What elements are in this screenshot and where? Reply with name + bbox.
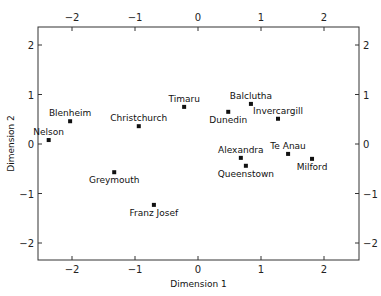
x-axis-title: Dimension 1 <box>170 279 226 289</box>
point-label: Timaru <box>167 94 199 104</box>
square-marker-icon <box>47 138 51 142</box>
y-tick-label-right: 0 <box>363 139 369 150</box>
y-tick-label-right: −1 <box>363 189 378 200</box>
square-marker-icon <box>112 170 116 174</box>
point-label: Alexandra <box>218 145 264 155</box>
data-point: Franz Josef <box>130 203 179 218</box>
x-tick-label-top: −1 <box>128 12 143 23</box>
x-tick-label-bottom: 0 <box>195 264 201 275</box>
x-tick-label-top: −2 <box>65 12 80 23</box>
point-label: Queenstown <box>218 169 274 179</box>
point-label: Nelson <box>33 127 64 137</box>
square-marker-icon <box>276 117 280 121</box>
data-point: Te Anau <box>269 141 305 156</box>
point-label: Christchurch <box>110 113 167 123</box>
square-marker-icon <box>244 164 248 168</box>
y-tick-label-right: 1 <box>363 90 369 101</box>
point-label: Invercargill <box>253 106 303 116</box>
data-point: Dunedin <box>209 110 247 125</box>
square-marker-icon <box>239 156 243 160</box>
data-point: Greymouth <box>89 170 140 185</box>
square-marker-icon <box>226 110 230 114</box>
data-point: Christchurch <box>110 113 167 128</box>
data-point: Invercargill <box>253 106 303 121</box>
point-label: Franz Josef <box>130 208 179 218</box>
data-point: Timaru <box>167 94 199 109</box>
point-label: Dunedin <box>209 115 247 125</box>
square-marker-icon <box>68 119 72 123</box>
axis-ticks <box>38 27 359 260</box>
point-label: Greymouth <box>89 175 140 185</box>
data-point: Queenstown <box>218 164 274 179</box>
data-point: Alexandra <box>218 145 264 160</box>
square-marker-icon <box>310 157 314 161</box>
square-marker-icon <box>137 124 141 128</box>
point-label: Milford <box>297 162 328 172</box>
data-point: Blenheim <box>49 108 91 123</box>
point-label: Te Anau <box>269 141 305 151</box>
y-tick-label-left: 0 <box>28 139 34 150</box>
x-tick-label-bottom: 2 <box>321 264 327 275</box>
y-tick-label-right: 2 <box>363 40 369 51</box>
y-tick-label-left: −1 <box>19 189 34 200</box>
x-tick-label-top: 1 <box>258 12 264 23</box>
y-tick-label-right: −2 <box>363 238 378 249</box>
y-tick-label-left: −2 <box>19 238 34 249</box>
point-label: Balclutha <box>230 91 272 101</box>
x-tick-label-bottom: −1 <box>128 264 143 275</box>
data-points: NelsonBlenheimChristchurchTimaruDunedinB… <box>33 91 327 218</box>
plot-frame <box>38 27 359 260</box>
square-marker-icon <box>152 203 156 207</box>
x-tick-label-top: 2 <box>321 12 327 23</box>
y-tick-label-left: 2 <box>28 40 34 51</box>
data-point: Balclutha <box>230 91 272 106</box>
x-tick-label-bottom: −2 <box>65 264 80 275</box>
axis-tick-labels: −2−2−1−1001122221100−1−1−2−2 <box>19 12 378 275</box>
x-tick-label-bottom: 1 <box>258 264 264 275</box>
square-marker-icon <box>182 105 186 109</box>
square-marker-icon <box>286 152 290 156</box>
data-point: Milford <box>297 157 328 172</box>
point-label: Blenheim <box>49 108 91 118</box>
y-axis-title: Dimension 2 <box>6 115 16 171</box>
x-tick-label-top: 0 <box>195 12 201 23</box>
y-tick-label-left: 1 <box>28 90 34 101</box>
mds-scatter-chart: −2−2−1−1001122221100−1−1−2−2 NelsonBlenh… <box>0 0 381 296</box>
